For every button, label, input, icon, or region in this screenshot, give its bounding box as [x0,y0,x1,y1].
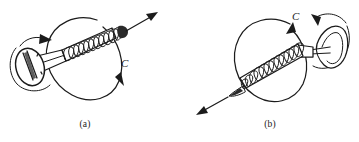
screw-head-a [11,45,48,89]
screw-head-b [310,26,348,68]
rotation-label-a: C [121,57,129,69]
panel-b-caption: (b) [245,120,295,130]
panel-a-caption: (a) [60,120,110,130]
panel-a: C [10,12,158,100]
figure-container: C [0,0,359,142]
advance-arrow-b [196,97,228,115]
panel-b: C [196,10,349,115]
advance-arrow-a [126,12,158,31]
rotation-label-b: C [292,10,300,22]
screw-threads-a [62,26,128,61]
screw-threads-b [229,43,304,96]
screw-diagram-svg: C [0,0,359,142]
